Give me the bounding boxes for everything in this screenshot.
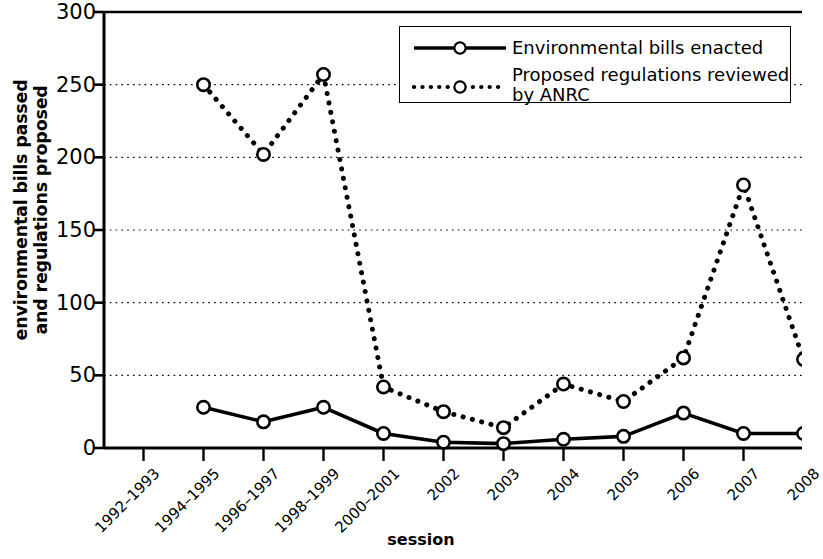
legend-key-dotted-line-icon: [412, 74, 508, 100]
legend-key-solid-line-icon: [412, 35, 508, 61]
legend-entry-regulations: Proposed regulations reviewed by ANRC: [400, 64, 790, 96]
legend-label-bills: Environmental bills enacted: [508, 38, 763, 58]
legend-entry-bills: Environmental bills enacted: [400, 32, 790, 64]
legend-label-regulations: Proposed regulations reviewed by ANRC: [508, 64, 789, 105]
legend: Environmental bills enacted Proposed reg…: [399, 26, 791, 103]
x-axis-title: session: [0, 530, 802, 549]
